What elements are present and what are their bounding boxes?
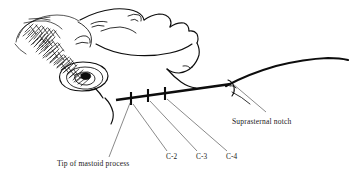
landmark-line bbox=[116, 84, 231, 100]
label-suprasternal-notch: Suprasternal notch bbox=[232, 117, 291, 126]
label-c4: C-4 bbox=[226, 152, 238, 161]
leader-line-c2 bbox=[133, 104, 167, 151]
anatomical-figure: Tip of mastoid process Suprasternal notc… bbox=[0, 0, 352, 178]
label-c3: C-3 bbox=[196, 152, 208, 161]
leader-line-c3 bbox=[150, 101, 197, 151]
neck-and-shoulder bbox=[105, 58, 348, 124]
label-tip-of-mastoid-process: Tip of mastoid process bbox=[57, 159, 129, 168]
leader-line-c4 bbox=[167, 99, 227, 151]
figure-canvas: Tip of mastoid process Suprasternal notc… bbox=[0, 0, 352, 178]
label-c2: C-2 bbox=[166, 152, 178, 161]
eye-region bbox=[75, 36, 90, 44]
hair-region bbox=[15, 15, 92, 86]
leader-line-mastoid bbox=[109, 103, 130, 157]
leader-line-suprasternal bbox=[233, 84, 266, 112]
face-profile bbox=[80, 9, 199, 73]
